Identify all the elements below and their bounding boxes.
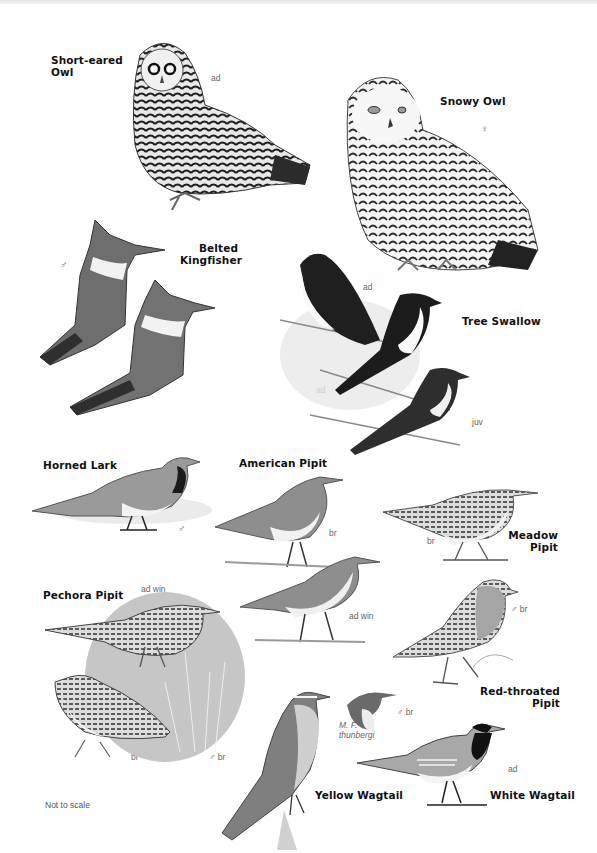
short-eared-owl-illustration bbox=[110, 35, 315, 215]
american-pipit-illustration bbox=[215, 472, 390, 647]
label-american-pipit: American Pipit bbox=[239, 458, 327, 470]
tree-swallow-illustration bbox=[280, 245, 490, 470]
horned-lark-illustration bbox=[32, 448, 214, 538]
footnote-not-to-scale: Not to scale bbox=[45, 800, 90, 810]
pechora-pipit-illustration bbox=[45, 592, 240, 772]
meadow-pipit-illustration bbox=[383, 480, 543, 565]
field-guide-plate: Short-eared Owl ad Snowy Owl ♀ bbox=[0, 0, 597, 853]
label-line: Pipit bbox=[470, 698, 560, 710]
label-line: American Pipit bbox=[239, 458, 327, 470]
belted-kingfisher-illustration bbox=[35, 215, 220, 415]
red-throated-pipit-illustration bbox=[393, 572, 518, 692]
white-wagtail-illustration bbox=[357, 715, 517, 810]
